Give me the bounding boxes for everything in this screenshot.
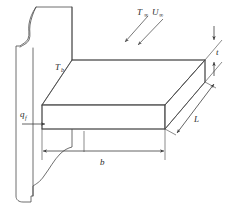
width-label: b bbox=[100, 157, 105, 167]
freestream-flow-arrows bbox=[125, 16, 163, 45]
fin-solid bbox=[42, 60, 205, 129]
freestream-label-group: T ∞ U ∞ bbox=[137, 7, 163, 18]
fin-front-face bbox=[42, 105, 165, 129]
thickness-ext-line-bottom bbox=[205, 62, 222, 82]
freestream-velocity-label: U bbox=[152, 7, 159, 17]
freestream-temperature-subscript: ∞ bbox=[144, 12, 148, 18]
length-label: L bbox=[193, 114, 199, 124]
length-ext-line-lower bbox=[165, 129, 176, 135]
thickness-ext-line-top bbox=[205, 40, 222, 60]
figure-root: T ∞ U ∞ T b q f t L bbox=[0, 0, 235, 215]
thickness-label: t bbox=[216, 47, 219, 57]
base-temperature-subscript: b bbox=[61, 67, 64, 73]
thickness-dimension: t bbox=[205, 26, 222, 82]
freestream-velocity-subscript: ∞ bbox=[159, 12, 163, 18]
freestream-temperature-label: T bbox=[137, 7, 143, 17]
length-ext-line-upper bbox=[205, 82, 216, 88]
fin-schematic-diagram: T ∞ U ∞ T b q f t L bbox=[0, 0, 235, 215]
